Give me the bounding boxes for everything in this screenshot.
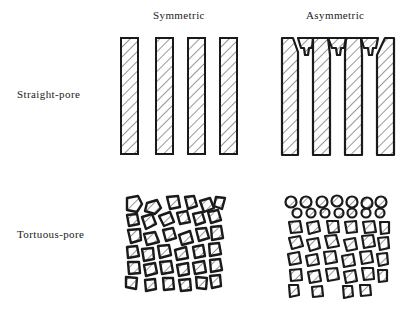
asymmetric-straight-pore-panel (282, 38, 394, 155)
pore-structure-diagram (0, 0, 412, 311)
row-label-straight-pore: Straight-pore (17, 88, 80, 100)
column-label-symmetric: Symmetric (153, 9, 205, 21)
symmetric-tortuous-pore-panel (126, 196, 225, 291)
asymmetric-tortuous-pore-panel (286, 196, 390, 299)
column-label-asymmetric: Asymmetric (306, 9, 364, 21)
symmetric-straight-pore-panel (121, 38, 237, 154)
row-label-tortuous-pore: Tortuous-pore (17, 228, 84, 240)
